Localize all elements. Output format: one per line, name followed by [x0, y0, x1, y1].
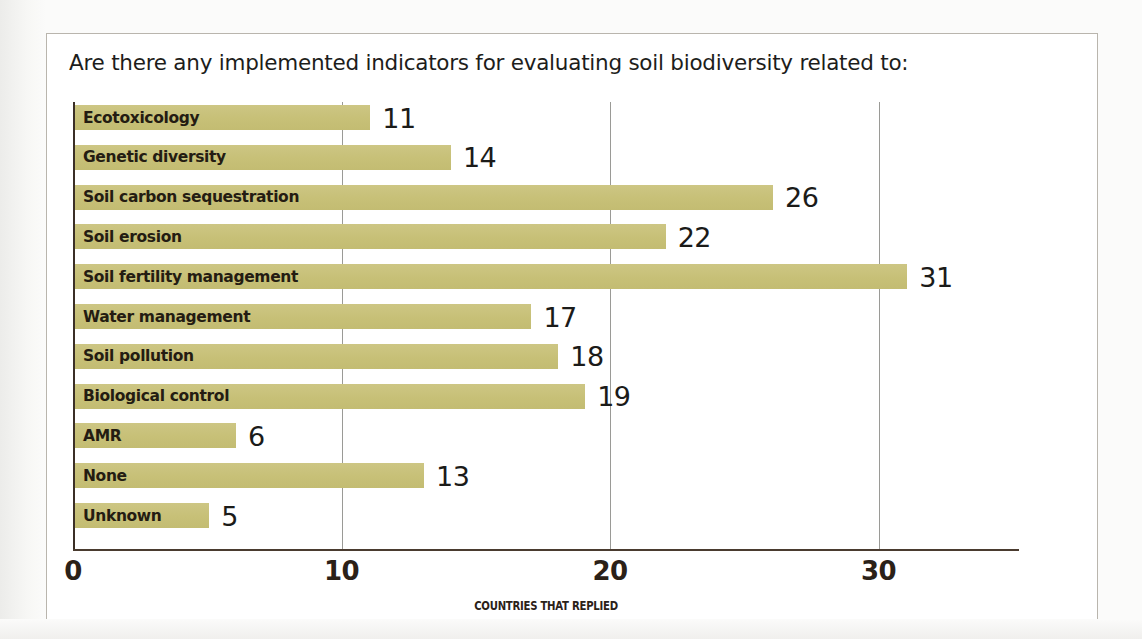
- bar-value-label: 5: [221, 500, 238, 531]
- bar-category-label: Soil fertility management: [83, 268, 298, 286]
- bar-category-label: Biological control: [83, 387, 229, 405]
- x-tick-label-0: 0: [64, 556, 82, 586]
- bar-row[interactable]: Soil pollution18: [75, 344, 1015, 369]
- bar-row[interactable]: Biological control19: [75, 384, 1015, 409]
- bar-row[interactable]: Soil carbon sequestration26: [75, 185, 1015, 210]
- bar-value-label: 13: [436, 460, 469, 491]
- bar-row[interactable]: Ecotoxicology11: [75, 105, 1015, 130]
- bar-value-label: 6: [248, 420, 265, 451]
- bar-row[interactable]: Soil erosion22: [75, 224, 1015, 249]
- bar-category-label: None: [83, 467, 127, 485]
- bar-value-label: 22: [678, 221, 711, 252]
- page-background: Are there any implemented indicators for…: [0, 0, 1142, 639]
- bar-category-label: Ecotoxicology: [83, 109, 199, 127]
- bar-value-label: 18: [570, 341, 603, 372]
- bar-value-label: 26: [785, 182, 818, 213]
- bar-category-label: AMR: [83, 427, 121, 445]
- bar-row[interactable]: None13: [75, 463, 1015, 488]
- chart-panel: Are there any implemented indicators for…: [46, 33, 1098, 620]
- bar-row[interactable]: Soil fertility management31: [75, 264, 1015, 289]
- x-axis-label: COUNTRIES THAT REPLIED: [130, 599, 962, 613]
- bar-category-label: Genetic diversity: [83, 148, 226, 166]
- bar-value-label: 14: [463, 142, 496, 173]
- x-tick-label-10: 10: [324, 556, 359, 586]
- bar-value-label: 31: [919, 261, 952, 292]
- bar-category-label: Soil pollution: [83, 347, 194, 365]
- bar-category-label: Soil carbon sequestration: [83, 188, 299, 206]
- bar-row[interactable]: Genetic diversity14: [75, 145, 1015, 170]
- x-tick-label-30: 30: [861, 556, 896, 586]
- bar-category-label: Soil erosion: [83, 228, 182, 246]
- bar[interactable]: [75, 463, 424, 488]
- bar-row[interactable]: AMR6: [75, 423, 1015, 448]
- bar-category-label: Water management: [83, 308, 250, 326]
- bar-value-label: 19: [597, 381, 630, 412]
- bar-category-label: Unknown: [83, 507, 162, 525]
- bar-value-label: 11: [382, 102, 415, 133]
- bar-value-label: 17: [543, 301, 576, 332]
- bar-row[interactable]: Water management17: [75, 304, 1015, 329]
- bar-row[interactable]: Unknown5: [75, 503, 1015, 528]
- plot-area: Ecotoxicology11Genetic diversity14Soil c…: [73, 102, 1033, 554]
- x-tick-label-20: 20: [592, 556, 627, 586]
- page-title: Are there any implemented indicators for…: [69, 50, 908, 75]
- x-axis-line: [73, 549, 1019, 551]
